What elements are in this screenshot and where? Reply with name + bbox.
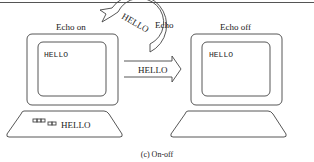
echo-label: Echo: [155, 20, 174, 30]
left-screen-text: HELLO: [44, 50, 68, 59]
transmit-arrow-text: HELLO: [138, 65, 168, 75]
key-icon: [41, 119, 45, 122]
key-icon: [52, 122, 56, 125]
figure-caption: (c) On-off: [141, 150, 174, 159]
right-terminal-label: Echo off: [220, 22, 251, 32]
echo-on-off-diagram: Echo on HELLO HELLO HELLO Echo HELLO Ech…: [0, 0, 314, 162]
key-icon: [48, 122, 52, 125]
echo-arc-text: HELLO: [120, 11, 151, 35]
key-icon: [37, 119, 41, 122]
left-keyboard-text: HELLO: [61, 120, 91, 130]
key-icon: [33, 119, 37, 122]
right-screen-text: HELLO: [209, 50, 233, 59]
left-terminal-label: Echo on: [56, 22, 86, 32]
right-keyboard: [171, 111, 287, 137]
